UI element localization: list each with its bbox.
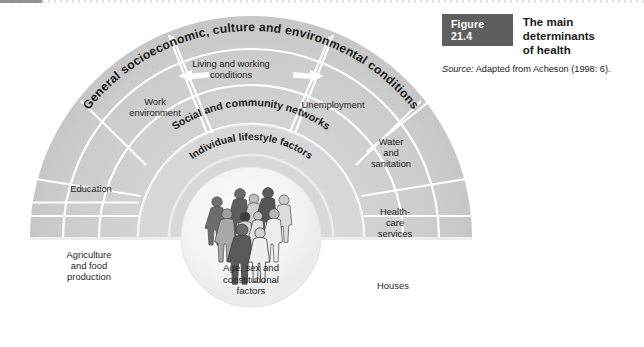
figure-page: General socioeconomic, culture and envir… [0, 0, 644, 347]
figure-source: Source: Adapted from Acheson (1998: 6). [442, 64, 638, 74]
figure-source-prefix: Source: [442, 64, 474, 74]
figure-title: The main determinants of health [523, 14, 638, 57]
figure-caption-block: Figure 21.4 The main determinants of hea… [442, 14, 638, 74]
figure-source-text: Adapted from Acheson (1998: 6). [474, 64, 611, 74]
baseline-mask [0, 237, 644, 347]
figure-number-badge: Figure 21.4 [442, 14, 513, 46]
